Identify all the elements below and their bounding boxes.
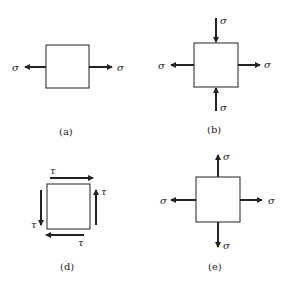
label-left: σ [160,195,168,206]
panel-e: σ σ σ σ (e) [160,151,276,272]
caption: (b) [207,124,221,135]
label-right: σ [268,195,276,206]
element-square [46,45,89,88]
label-bottom: σ [220,102,228,113]
panel-a: σ σ (a) [12,45,125,137]
label-left: τ [31,219,37,230]
panel-d: τ τ τ τ (d) [31,165,107,272]
label-right: τ [101,186,107,197]
label-top: σ [223,151,231,162]
caption: (a) [59,126,73,137]
label-right: σ [264,59,272,70]
element-square [196,177,240,222]
label-bottom: τ [78,237,84,248]
label-bottom: σ [223,240,231,251]
panel-b: σ σ σ σ (b) [158,15,272,135]
label-top: σ [220,15,228,26]
label-right: σ [117,62,125,73]
label-left: σ [12,62,20,73]
label-left: σ [158,60,166,71]
label-top: τ [50,165,56,176]
caption: (d) [60,261,74,272]
caption: (e) [208,261,222,272]
element-square [194,43,238,87]
element-square [47,184,90,229]
stress-element-diagram: σ σ (a) σ σ σ σ (b) τ τ τ τ (d) σ σ [0,0,305,282]
